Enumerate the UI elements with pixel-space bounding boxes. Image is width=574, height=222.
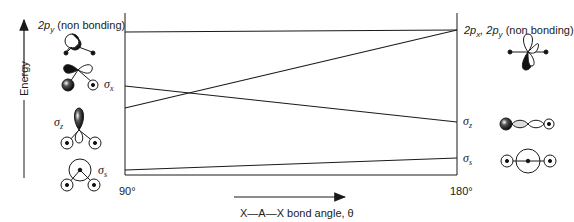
label-sigma-s-right: σs: [463, 151, 472, 167]
walsh-diagram: Energy 2py (non bonding) σx σz σs 2px, 2…: [0, 0, 574, 222]
tick-90: 90°: [119, 185, 136, 197]
line-sigmax-to-sigmaz: [125, 86, 457, 122]
plot-frame: [125, 13, 457, 175]
energy-axis-label: Energy: [18, 61, 30, 96]
tick-180: 180°: [450, 185, 473, 197]
orbital-2px-2py-linear-icon: [508, 34, 548, 70]
bond-angle-axis: X—A—X bond angle, θ: [234, 197, 354, 219]
label-2px-2py-nonbonding-right: 2px, 2py (non bonding): [463, 24, 574, 39]
orbital-sigma-x-bent-icon: [62, 65, 98, 91]
orbital-sigma-s-bent-icon: [61, 159, 100, 191]
label-sigma-z-left: σz: [54, 115, 64, 131]
line-2py-nonbonding: [125, 30, 457, 32]
line-sigmas: [125, 158, 457, 170]
bond-angle-label: X—A—X bond angle, θ: [240, 207, 354, 219]
orbital-sigma-s-linear-icon: [501, 149, 556, 173]
label-sigma-s-left: σs: [98, 163, 107, 179]
correlation-lines: [125, 30, 457, 170]
orbital-2py-bent-icon: [64, 34, 95, 55]
label-2py-nonbonding-left: 2py (non bonding): [37, 19, 125, 34]
orbital-sigma-z-linear-icon: [500, 118, 554, 130]
label-sigma-x: σx: [104, 77, 114, 93]
energy-axis: Energy: [18, 20, 30, 178]
line-sigmaz-to-2p: [125, 30, 457, 108]
label-sigma-z-right: σz: [463, 114, 473, 130]
orbital-sigma-z-bent-icon: [61, 108, 101, 149]
